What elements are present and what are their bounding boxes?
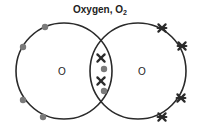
electron-dot (20, 44, 26, 50)
right-atom-symbol: O (138, 66, 146, 77)
shared-electron-dot (101, 88, 107, 94)
covalent-bond-diagram: O O (0, 0, 200, 134)
electron-dot (42, 24, 48, 30)
electron-cross (158, 24, 167, 31)
electron-dot (20, 97, 26, 103)
shared-electron-dot (101, 66, 107, 72)
electron-cross (178, 42, 187, 49)
left-atom-symbol: O (58, 66, 66, 77)
electron-cross (177, 94, 186, 101)
shared-electron-cross (97, 77, 104, 84)
shared-electron-cross (97, 54, 104, 61)
electron-dot (40, 114, 46, 120)
electron-cross (158, 113, 167, 120)
